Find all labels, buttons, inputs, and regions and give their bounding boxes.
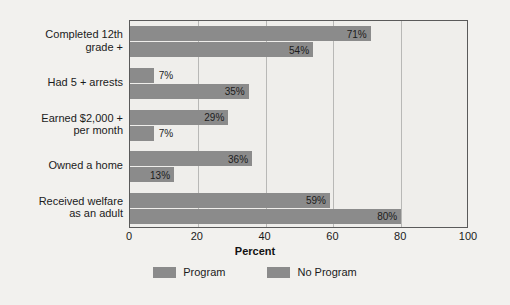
chart-figure: Completed 12thgrade +Had 5 + arrestsEarn… [0, 0, 510, 305]
plot-area: 71%54%7%35%29%7%36%13%59%80% [129, 20, 468, 228]
legend-label: Program [183, 266, 225, 278]
bar-value-label: 35% [225, 87, 245, 97]
category-label: Received welfareas an adult [39, 195, 123, 220]
bar [130, 42, 313, 57]
category-label-line: Owned a home [48, 159, 123, 172]
bar-value-label: 54% [289, 46, 309, 56]
category-label-line: Received welfare [39, 195, 123, 208]
bar-value-label: 13% [150, 171, 170, 181]
bar [130, 209, 401, 224]
bar-value-label: 7% [159, 71, 173, 81]
gridline [333, 21, 334, 227]
x-tick-label: 20 [191, 230, 203, 242]
x-tick-label: 40 [258, 230, 270, 242]
category-label: Owned a home [48, 159, 123, 172]
category-label-line: Had 5 + arrests [47, 76, 123, 89]
bar [130, 68, 154, 83]
category-label-line: grade + [45, 41, 123, 54]
category-label: Completed 12thgrade + [45, 28, 123, 53]
legend-swatch [153, 267, 176, 278]
bar [130, 193, 330, 208]
legend-label: No Program [297, 266, 356, 278]
category-label: Earned $2,000 +per month [41, 112, 123, 137]
bar-value-label: 36% [228, 155, 248, 165]
bar-value-label: 59% [306, 196, 326, 206]
category-label-line: as an adult [39, 207, 123, 220]
category-label-line: Completed 12th [45, 28, 123, 41]
x-tick-label: 80 [394, 230, 406, 242]
x-axis-title: Percent [0, 245, 510, 257]
category-label-line: Earned $2,000 + [41, 112, 123, 125]
category-label-line: per month [41, 124, 123, 137]
bar [130, 126, 154, 141]
bar [130, 26, 371, 41]
bar-value-label: 7% [159, 129, 173, 139]
legend-swatch [267, 267, 290, 278]
bar-value-label: 80% [377, 212, 397, 222]
bar-value-label: 29% [204, 113, 224, 123]
x-tick-label: 60 [326, 230, 338, 242]
bar-value-label: 71% [347, 30, 367, 40]
category-label: Had 5 + arrests [47, 76, 123, 89]
x-tick-label: 100 [459, 230, 477, 242]
legend-item: Program [153, 266, 225, 278]
legend-item: No Program [267, 266, 356, 278]
x-tick-label: 0 [126, 230, 132, 242]
chart-legend: ProgramNo Program [0, 266, 510, 278]
gridline [401, 21, 402, 227]
